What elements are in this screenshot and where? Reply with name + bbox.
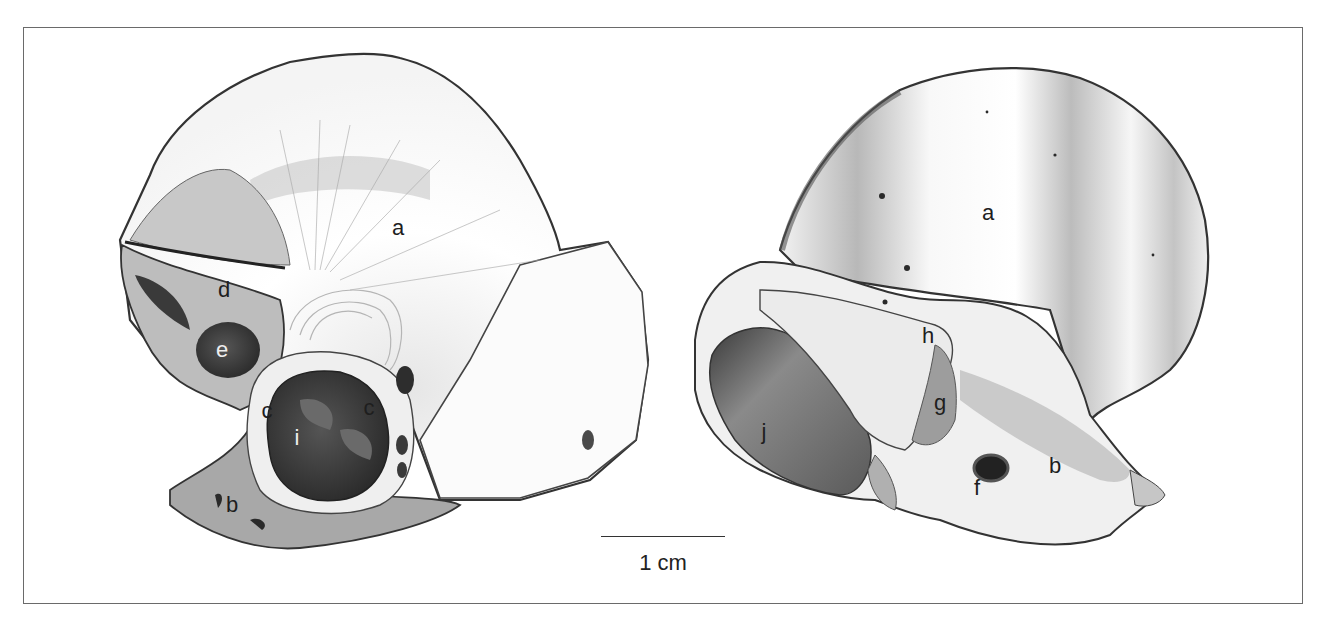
label-left-i: i [295, 427, 300, 449]
label-right-h: h [922, 325, 934, 347]
right-bone-view [695, 68, 1208, 544]
label-left-a: a [392, 217, 404, 239]
label-right-b: b [1049, 455, 1061, 477]
label-left-b: b [226, 494, 238, 516]
scale-bar-label: 1 cm [639, 550, 687, 576]
label-right-a: a [982, 202, 994, 224]
label-left-c-1: c [262, 400, 273, 422]
label-right-f: f [974, 477, 980, 499]
left-bone-view [120, 54, 648, 549]
scale-bar-line [601, 536, 725, 537]
label-left-c-2: c [364, 397, 375, 419]
label-right-j: j [762, 421, 767, 443]
label-right-g: g [934, 392, 946, 414]
bone-illustration [0, 0, 1328, 623]
label-left-d: d [218, 279, 230, 301]
label-left-e: e [216, 339, 228, 361]
